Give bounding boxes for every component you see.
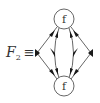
arrowhead-icon (55, 31, 58, 38)
arrowhead-icon (70, 31, 73, 38)
arrowhead-icon (70, 68, 73, 75)
node-top: f (54, 9, 74, 29)
node-bottom: f (54, 76, 74, 96)
arrowhead-icon (55, 68, 58, 75)
graph-diagram: f f (0, 0, 100, 103)
